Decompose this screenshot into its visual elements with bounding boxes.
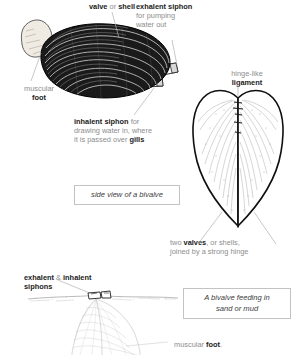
leader-two-valves-left <box>198 212 222 244</box>
leader-two-valves-right <box>254 212 276 244</box>
buried-siphons <box>88 291 111 299</box>
label-two-valves-line2: joined by a strong hinge <box>170 247 248 256</box>
leader-exhalent-inhalent-siphons <box>58 280 92 294</box>
valve-right-shape <box>238 91 283 227</box>
caption-side-view-box: side view of a bivalve <box>74 185 180 205</box>
buried-shell-growth-arcs <box>73 307 137 355</box>
buried-shell-radial-lines <box>74 300 126 355</box>
valve-left-shape <box>193 91 238 227</box>
leader-exhalent-siphon <box>172 40 177 65</box>
two-valves-top-view-illustration <box>176 84 302 244</box>
buried-bivalve-in-sand-illustration <box>0 262 302 355</box>
leader-muscular-foot-bottom <box>126 342 168 346</box>
caption-side-view-text: side view of a bivalve <box>91 190 163 200</box>
